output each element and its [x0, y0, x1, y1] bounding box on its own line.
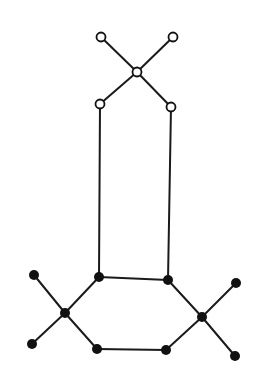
graph-edge	[168, 280, 202, 317]
filled-node	[94, 272, 104, 282]
graph-diagram	[0, 0, 272, 384]
graph-edge	[65, 277, 99, 313]
graph-edge	[137, 72, 171, 107]
graph-edge	[65, 313, 97, 349]
filled-node	[163, 275, 173, 285]
hollow-node	[169, 33, 178, 42]
graph-edge	[137, 37, 173, 72]
filled-node	[60, 308, 70, 318]
graph-edge	[34, 275, 65, 313]
hollow-node	[97, 33, 106, 42]
hollow-node	[133, 68, 142, 77]
filled-node	[27, 339, 37, 349]
filled-node	[197, 312, 207, 322]
graph-edge	[101, 37, 137, 72]
filled-node	[231, 278, 241, 288]
filled-node	[92, 344, 102, 354]
filled-node	[161, 345, 171, 355]
graph-edges	[32, 37, 236, 356]
hollow-node	[96, 100, 105, 109]
graph-nodes	[27, 33, 241, 362]
graph-edge	[168, 107, 171, 280]
graph-edge	[97, 349, 166, 350]
graph-edge	[99, 277, 168, 280]
filled-node	[29, 270, 39, 280]
graph-edge	[32, 313, 65, 344]
hollow-node	[167, 103, 176, 112]
graph-edge	[166, 317, 202, 350]
graph-edge	[99, 104, 100, 277]
filled-node	[230, 351, 240, 361]
graph-edge	[100, 72, 137, 104]
graph-edge	[202, 317, 235, 356]
graph-edge	[202, 283, 236, 317]
